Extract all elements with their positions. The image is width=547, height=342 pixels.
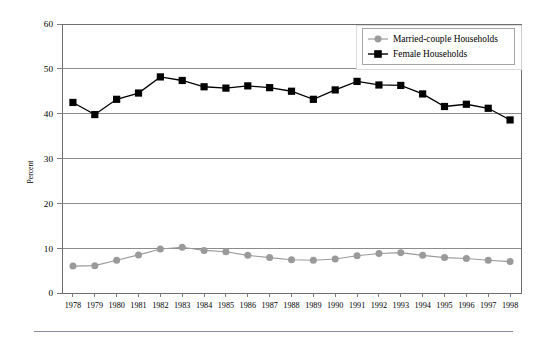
square-marker-icon: [200, 83, 207, 90]
circle-marker-icon: [135, 251, 142, 258]
circle-marker-icon: [354, 252, 361, 259]
square-marker-icon: [506, 116, 513, 123]
x-tick-label: 1986: [240, 301, 256, 310]
square-marker-icon: [288, 88, 295, 95]
circle-marker-icon: [113, 257, 120, 264]
circle-marker-icon: [244, 252, 251, 259]
circle-marker-icon: [266, 254, 273, 261]
x-tick-label: 1990: [327, 301, 343, 310]
y-axis-ticks: [57, 24, 62, 293]
x-tick-label: 1995: [436, 301, 452, 310]
x-tick-label: 1989: [305, 301, 321, 310]
x-tick-label: 1993: [393, 301, 409, 310]
circle-marker-icon: [332, 255, 339, 262]
circle-marker-icon: [288, 256, 295, 263]
x-tick-label: 1997: [480, 301, 496, 310]
x-tick-label: 1996: [458, 301, 474, 310]
y-tick-labels: 60 50 40 30 20 10 0: [44, 19, 54, 298]
square-marker-icon: [419, 90, 426, 97]
circle-marker-icon: [397, 249, 404, 256]
x-tick-label: 1992: [371, 301, 387, 310]
circle-marker-icon: [157, 246, 164, 253]
square-marker-icon: [266, 84, 273, 91]
square-marker-icon: [310, 96, 317, 103]
circle-marker-icon: [310, 257, 317, 264]
x-tick-label: 1979: [87, 301, 103, 310]
x-tick-label: 1981: [130, 301, 146, 310]
x-tick-label: 1985: [218, 301, 234, 310]
circle-marker-icon: [91, 262, 98, 269]
circle-marker-icon: [419, 252, 426, 259]
square-marker-icon: [332, 86, 339, 93]
square-marker-icon: [441, 103, 448, 110]
square-marker-icon: [179, 77, 186, 84]
legend-label-married-couple: Married-couple Households: [393, 34, 498, 44]
y-tick-label: 20: [44, 199, 54, 209]
x-tick-label: 1998: [502, 301, 518, 310]
circle-marker-icon: [441, 254, 448, 261]
square-marker-icon: [374, 50, 382, 58]
x-axis-ticks: [73, 293, 510, 297]
circle-marker-icon: [179, 244, 186, 251]
square-marker-icon: [244, 82, 251, 89]
x-tick-label: 1980: [108, 301, 124, 310]
chart-figure: 60 50 40 30 20 10 0 Percent 197819791980…: [0, 0, 547, 342]
x-tick-label: 1987: [261, 301, 277, 310]
square-marker-icon: [353, 78, 360, 85]
circle-marker-icon: [485, 257, 492, 264]
circle-marker-icon: [375, 250, 382, 257]
circle-marker-icon: [375, 36, 382, 43]
y-tick-label: 10: [44, 244, 54, 254]
circle-marker-icon: [463, 255, 470, 262]
x-tick-label: 1984: [196, 301, 212, 310]
square-marker-icon: [375, 81, 382, 88]
square-marker-icon: [113, 96, 120, 103]
square-marker-icon: [69, 99, 76, 106]
line-chart-svg: 60 50 40 30 20 10 0 Percent 197819791980…: [0, 0, 547, 342]
y-tick-label: 40: [44, 109, 54, 119]
x-tick-label: 1991: [349, 301, 365, 310]
x-tick-label: 1988: [283, 301, 299, 310]
y-axis-title: Percent: [26, 160, 35, 184]
square-marker-icon: [397, 82, 404, 89]
x-tick-label: 1994: [414, 301, 430, 310]
circle-marker-icon: [69, 263, 76, 270]
square-marker-icon: [91, 111, 98, 118]
circle-marker-icon: [201, 247, 208, 254]
x-tick-labels: 1978197919801981198219831984198519861987…: [65, 301, 519, 310]
square-marker-icon: [485, 105, 492, 112]
legend-label-female: Female Households: [393, 49, 468, 59]
y-tick-label: 30: [44, 154, 54, 164]
square-marker-icon: [135, 89, 142, 96]
x-tick-label: 1983: [174, 301, 190, 310]
y-tick-label: 50: [44, 64, 54, 74]
y-tick-label: 60: [44, 19, 54, 29]
legend: Married-couple Households Female Househo…: [356, 25, 521, 69]
square-marker-icon: [463, 101, 470, 108]
square-marker-icon: [157, 73, 164, 80]
circle-marker-icon: [222, 248, 229, 255]
y-tick-label: 0: [48, 288, 53, 298]
circle-marker-icon: [507, 258, 514, 265]
square-marker-icon: [222, 85, 229, 92]
x-tick-label: 1978: [65, 301, 81, 310]
x-tick-label: 1982: [152, 301, 168, 310]
